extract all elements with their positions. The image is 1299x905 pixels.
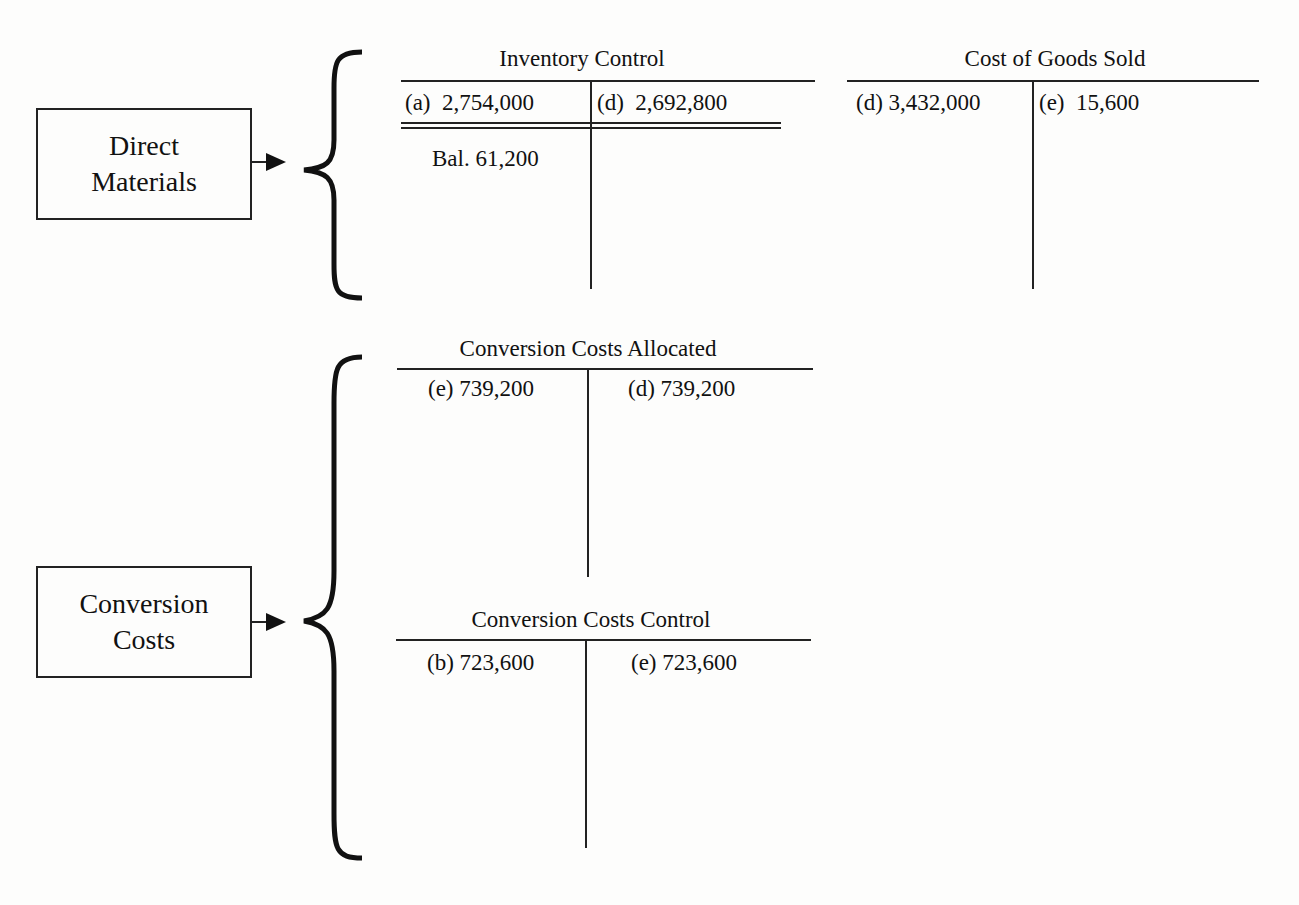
account-title: Conversion Costs Control — [406, 607, 776, 633]
conversion-costs-label-line1: Conversion — [79, 586, 208, 622]
double-underline-rule — [401, 122, 781, 129]
arrow-right-icon — [250, 610, 290, 634]
debit-entry: (b) 723,600 — [427, 650, 534, 676]
left-brace-icon — [296, 48, 366, 303]
t-account-center-rule — [585, 640, 587, 848]
debit-entry: (d) 3,432,000 — [856, 90, 981, 116]
credit-entry: (d) 739,200 — [628, 376, 735, 402]
debit-entry: (a) 2,754,000 — [405, 90, 534, 116]
credit-entry: (e) 723,600 — [631, 650, 737, 676]
credit-entry: (e) 15,600 — [1039, 90, 1139, 116]
account-title: Cost of Goods Sold — [870, 46, 1240, 72]
debit-entry: (e) 739,200 — [428, 376, 534, 402]
t-account-top-rule — [396, 639, 811, 641]
account-title: Inventory Control — [402, 46, 762, 72]
credit-entry: (d) 2,692,800 — [597, 90, 727, 116]
t-account-top-rule — [401, 80, 815, 82]
t-account-top-rule — [847, 80, 1259, 82]
left-brace-icon — [296, 353, 366, 863]
direct-materials-label-line1: Direct — [109, 128, 179, 164]
arrow-right-icon — [250, 150, 290, 174]
conversion-costs-box: Conversion Costs — [36, 566, 252, 678]
conversion-costs-label-line2: Costs — [113, 622, 175, 658]
t-account-center-rule — [590, 81, 592, 289]
balance-entry: Bal. 61,200 — [432, 146, 539, 172]
direct-materials-label-line2: Materials — [91, 164, 197, 200]
account-title: Conversion Costs Allocated — [398, 336, 778, 362]
t-account-center-rule — [587, 369, 589, 577]
t-account-center-rule — [1032, 81, 1034, 289]
direct-materials-box: Direct Materials — [36, 108, 252, 220]
t-account-top-rule — [397, 368, 813, 370]
